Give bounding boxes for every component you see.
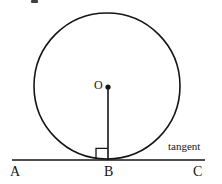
label-point-a: A — [10, 165, 20, 179]
right-angle-marker — [96, 148, 108, 159]
label-tangent: tangent — [168, 141, 200, 152]
center-point-dot — [105, 84, 110, 89]
label-point-b: B — [104, 165, 113, 179]
label-point-c: C — [193, 165, 202, 179]
geometry-figure: O A B C tangent — [0, 0, 222, 184]
label-center-o: O — [94, 79, 103, 91]
diagram-canvas — [0, 0, 222, 184]
